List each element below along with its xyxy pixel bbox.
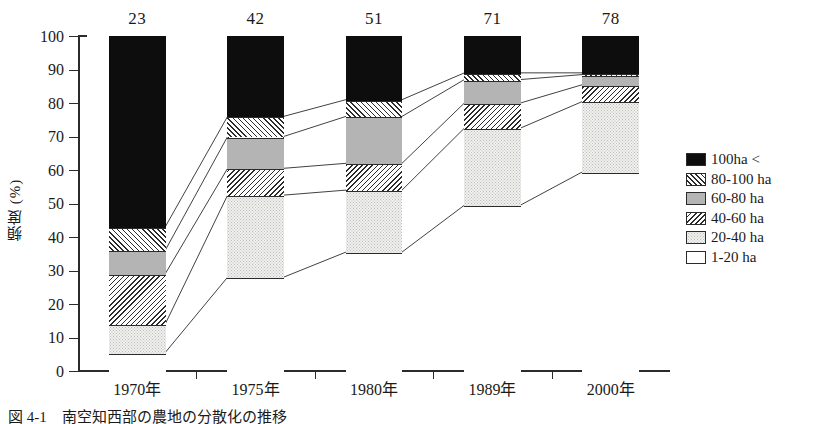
legend-swatch-icon-hatch-fwd — [686, 173, 706, 186]
segment-20-40ha-1970年 — [109, 325, 166, 353]
bar-2000年 — [583, 36, 639, 371]
plot-area: 1009080706050403020100 — [78, 36, 670, 371]
x-label-1975: 1975年 — [196, 380, 314, 404]
y-tick-label-100: 100 — [40, 29, 64, 45]
bar-1989年 — [464, 36, 520, 371]
legend-item-60-80ha: 60-80 ha — [686, 189, 814, 209]
sample-size-row: 23 42 51 71 78 — [78, 8, 670, 32]
x-tick-2 — [315, 371, 316, 379]
y-tick-90: 90 — [69, 70, 78, 71]
y-tick-label-40: 40 — [48, 230, 64, 246]
x-label-1970: 1970年 — [78, 380, 196, 404]
y-tick-10: 10 — [69, 338, 78, 339]
segment-60-80ha-2000年 — [582, 76, 639, 86]
y-tick-label-10: 10 — [48, 330, 64, 346]
y-tick-100: 100 — [69, 36, 78, 37]
legend-swatch-icon-black — [686, 153, 706, 166]
segment-1-20ha-2000年 — [582, 173, 639, 372]
segment-80-100ha-1970年 — [109, 228, 166, 251]
sample-size-2000: 78 — [552, 8, 670, 32]
chart-legend: 100ha <80-100 ha60-80 ha40-60 ha20-40 ha… — [686, 150, 814, 267]
y-tick-label-70: 70 — [48, 129, 64, 145]
x-label-1989: 1989年 — [433, 380, 551, 404]
y-tick-0: 0 — [69, 371, 78, 372]
stacked-bars — [78, 36, 670, 371]
legend-label-0: 100ha < — [711, 152, 760, 167]
y-axis-title: 頻度 (%) — [4, 150, 30, 270]
x-tick-3 — [433, 371, 434, 379]
segment-40-60ha-1970年 — [109, 275, 166, 325]
y-tick-label-30: 30 — [48, 263, 64, 279]
y-tick-label-90: 90 — [48, 62, 64, 78]
segment-1-20ha-1975年 — [227, 278, 284, 372]
figure-root: 23 42 51 71 78 頻度 (%) 100908070605040302… — [0, 0, 818, 424]
segment-80-100ha-1975年 — [227, 117, 284, 137]
y-tick-40: 40 — [69, 237, 78, 238]
sample-size-1970: 23 — [78, 8, 196, 32]
legend-item-100ha: 100ha < — [686, 150, 814, 170]
x-label-2000: 2000年 — [552, 380, 670, 404]
legend-label-2: 60-80 ha — [711, 191, 764, 206]
segment-80-100ha-1980年 — [346, 101, 403, 118]
legend-swatch-icon-dots — [686, 231, 706, 244]
segment-20-40ha-1989年 — [464, 129, 521, 206]
y-tick-30: 30 — [69, 271, 78, 272]
segment-100ha-1975年 — [227, 36, 284, 117]
segment-100ha-1989年 — [464, 36, 521, 74]
y-tick-label-60: 60 — [48, 163, 64, 179]
segment-20-40ha-1975年 — [227, 196, 284, 278]
x-tick-1 — [196, 371, 197, 379]
segment-100ha-1970年 — [109, 36, 166, 228]
legend-label-1: 80-100 ha — [711, 172, 771, 187]
y-tick-80: 80 — [69, 103, 78, 104]
sample-size-1989: 71 — [433, 8, 551, 32]
legend-item-1-20ha: 1-20 ha — [686, 248, 814, 268]
bar-1975年 — [228, 36, 284, 371]
legend-swatch-icon-hatch-back — [686, 212, 706, 225]
y-tick-label-0: 0 — [56, 364, 64, 380]
legend-item-80-100ha: 80-100 ha — [686, 170, 814, 190]
x-axis-labels: 1970年 1975年 1980年 1989年 2000年 — [78, 380, 670, 404]
legend-swatch-icon-gray — [686, 192, 706, 205]
segment-20-40ha-1980年 — [346, 191, 403, 253]
legend-item-40-60ha: 40-60 ha — [686, 209, 814, 229]
y-tick-50: 50 — [69, 204, 78, 205]
segment-20-40ha-2000年 — [582, 102, 639, 172]
sample-size-1975: 42 — [196, 8, 314, 32]
segment-1-20ha-1980年 — [346, 253, 403, 372]
segment-60-80ha-1980年 — [346, 117, 403, 164]
segment-40-60ha-1989年 — [464, 104, 521, 129]
legend-label-4: 20-40 ha — [711, 230, 764, 245]
y-tick-label-20: 20 — [48, 297, 64, 313]
y-tick-label-50: 50 — [48, 196, 64, 212]
segment-40-60ha-1975年 — [227, 169, 284, 196]
x-tick-4 — [552, 371, 553, 379]
bar-1970年 — [109, 36, 165, 371]
segment-40-60ha-1980年 — [346, 164, 403, 191]
segment-60-80ha-1989年 — [464, 81, 521, 104]
segment-1-20ha-1970年 — [109, 354, 166, 372]
segment-80-100ha-2000年 — [582, 74, 639, 76]
segment-100ha-1980年 — [346, 36, 403, 101]
y-tick-60: 60 — [69, 170, 78, 171]
figure-caption: 図 4-1 南空知西部の農地の分散化の推移 — [8, 409, 287, 424]
y-tick-label-80: 80 — [48, 96, 64, 112]
segment-60-80ha-1975年 — [227, 138, 284, 170]
y-tick-70: 70 — [69, 137, 78, 138]
legend-label-3: 40-60 ha — [711, 211, 764, 226]
segment-60-80ha-1970年 — [109, 251, 166, 274]
bar-1980年 — [346, 36, 402, 371]
legend-label-5: 1-20 ha — [711, 250, 756, 265]
y-tick-20: 20 — [69, 304, 78, 305]
segment-40-60ha-2000年 — [582, 86, 639, 103]
x-label-1980: 1980年 — [315, 380, 433, 404]
legend-item-20-40ha: 20-40 ha — [686, 228, 814, 248]
legend-swatch-icon-white — [686, 251, 706, 264]
segment-80-100ha-1989年 — [464, 74, 521, 81]
sample-size-1980: 51 — [315, 8, 433, 32]
segment-100ha-2000年 — [582, 36, 639, 74]
segment-1-20ha-1989年 — [464, 206, 521, 372]
